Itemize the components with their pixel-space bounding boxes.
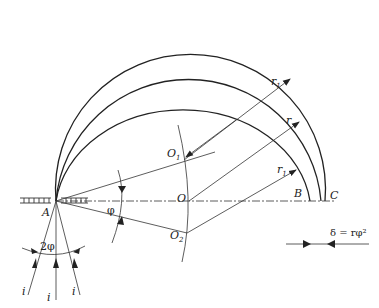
label-delta-formula: δ = rφ² <box>330 228 367 238</box>
ray-center-arrow <box>53 258 59 268</box>
ray-right <box>56 201 80 295</box>
middle-arc <box>56 80 321 201</box>
inner-arc <box>56 110 310 201</box>
diagram-svg <box>0 0 379 308</box>
label-ray-i-right: i <box>72 286 76 297</box>
label-r1-inner: r1 <box>277 164 287 178</box>
label-phi: φ <box>107 205 115 216</box>
line-A-O1 <box>56 152 215 201</box>
ray-right-arrow <box>72 258 78 268</box>
label-ray-i-left: i <box>22 286 26 297</box>
delta-arrow-right <box>303 240 311 248</box>
label-A: A <box>42 207 50 218</box>
label-r1-outer: r1 <box>271 76 281 90</box>
diagram-canvas: A O O1 O2 B C r1 r r1 φ 2φ i i i δ = rφ² <box>0 0 379 308</box>
label-two-phi: 2φ <box>40 241 55 252</box>
label-O2: O2 <box>170 230 184 244</box>
label-ray-i-center: i <box>47 292 51 303</box>
radius-inner-r1 <box>187 170 296 233</box>
radius-outer-r1 <box>184 79 290 160</box>
radius-middle-r <box>189 122 299 201</box>
outer-arc <box>55 54 325 201</box>
delta-arrow-left <box>327 240 335 248</box>
label-B: B <box>294 188 302 199</box>
label-r-middle: r <box>286 115 291 126</box>
ray-left-arrow <box>32 258 37 268</box>
slit-plate <box>20 198 88 203</box>
label-C: C <box>330 190 338 201</box>
label-O1: O1 <box>167 148 181 162</box>
label-O: O <box>177 193 186 204</box>
phi-arrow-top <box>118 186 126 193</box>
radius-arrow-top-to-O1 <box>186 120 236 157</box>
